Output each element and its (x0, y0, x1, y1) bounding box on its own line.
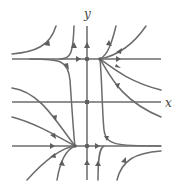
y-axis-label: y (83, 7, 91, 21)
trajectory-left-mid-2 (12, 117, 75, 146)
arrow-icon (95, 143, 100, 149)
arrow-icon (59, 160, 65, 166)
arrow-icon (84, 42, 90, 48)
trajectory-left-mid-1 (12, 88, 75, 146)
equilibrium-point (85, 144, 90, 149)
phase-portrait: y x (0, 0, 177, 187)
equilibrium-point (85, 57, 90, 62)
arrow-icon (50, 133, 56, 139)
arrow-icon (84, 160, 90, 165)
arrow-icon (50, 143, 55, 149)
arrow-icon (116, 56, 121, 62)
equilibrium-point (98, 57, 102, 61)
equilibrium-point (73, 144, 77, 148)
trajectory-upper-near-axis (60, 26, 74, 59)
x-axis-label: x (165, 96, 172, 110)
trajectory-upper-right-2 (100, 26, 146, 59)
arrow-icon (76, 56, 81, 62)
trajectory-lower-right-hyperbola (117, 151, 161, 180)
arrow-icon (95, 161, 101, 166)
arrow-icon (115, 64, 121, 68)
origin-marker (85, 100, 89, 104)
arrow-icon (121, 157, 126, 163)
trajectory-upper-left-hyperbola (12, 26, 56, 54)
